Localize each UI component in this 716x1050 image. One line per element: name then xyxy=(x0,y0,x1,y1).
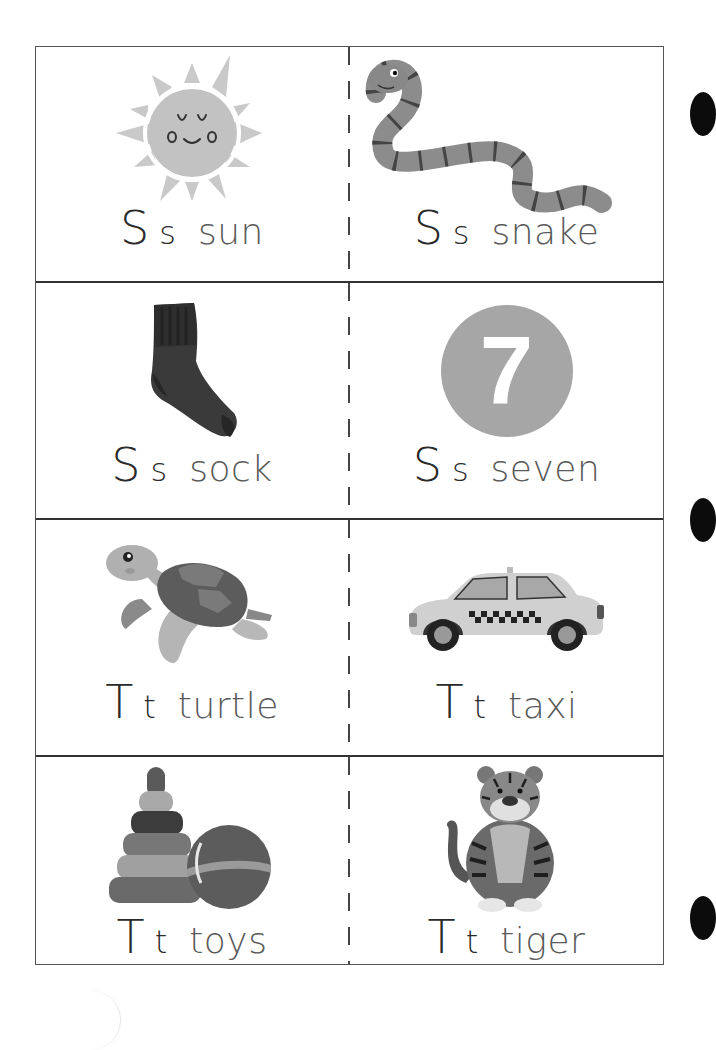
lowercase-letter: t xyxy=(143,691,156,723)
card-word: seven xyxy=(491,451,601,487)
card-sun: S s sun xyxy=(36,47,348,281)
sock-icon xyxy=(36,301,348,441)
card-label: S s sock xyxy=(36,442,348,488)
uppercase-letter: S xyxy=(414,205,443,251)
number-seven-icon: 7 xyxy=(350,303,663,439)
card-word: toys xyxy=(189,923,267,959)
lowercase-letter: s xyxy=(453,217,470,249)
card-label: S s snake xyxy=(350,205,663,251)
snake-icon xyxy=(350,53,663,223)
tiger-icon xyxy=(350,763,663,913)
card-snake: S s snake xyxy=(350,47,663,281)
card-toys: T t toys xyxy=(36,757,348,964)
uppercase-letter: S xyxy=(413,442,442,488)
card-word: taxi xyxy=(508,688,577,724)
card-taxi: T t taxi xyxy=(350,520,663,755)
card-label: T t taxi xyxy=(350,679,663,725)
page-curl-mark xyxy=(60,990,121,1050)
uppercase-letter: T xyxy=(428,914,456,960)
card-tiger: T t tiger xyxy=(350,757,663,964)
card-seven: 7 S s seven xyxy=(350,283,663,518)
uppercase-letter: T xyxy=(435,679,463,725)
lowercase-letter: s xyxy=(452,454,469,486)
uppercase-letter: T xyxy=(117,914,145,960)
uppercase-letter: T xyxy=(105,679,133,725)
card-row-1: S s sun S s snake xyxy=(36,47,663,283)
card-label: T t toys xyxy=(36,914,348,960)
card-label: S s seven xyxy=(350,442,663,488)
card-row-2: S s sock 7 S s seven xyxy=(36,283,663,520)
binder-hole-bottom xyxy=(690,896,716,940)
lowercase-letter: s xyxy=(159,217,176,249)
lowercase-letter: t xyxy=(474,691,487,723)
card-word: turtle xyxy=(178,688,279,724)
toys-icon xyxy=(36,765,348,915)
uppercase-letter: S xyxy=(120,205,149,251)
card-row-3: T t turtle xyxy=(36,520,663,757)
sun-icon xyxy=(36,55,348,205)
card-label: T t tiger xyxy=(350,914,663,960)
card-turtle: T t turtle xyxy=(36,520,348,755)
card-word: tiger xyxy=(500,923,585,959)
card-word: sock xyxy=(189,451,272,487)
card-label: T t turtle xyxy=(36,679,348,725)
card-sock: S s sock xyxy=(36,283,348,518)
flashcard-sheet: S s sun S s snake xyxy=(35,46,664,965)
card-row-4: T t toys xyxy=(36,757,663,964)
lowercase-letter: t xyxy=(466,926,479,958)
uppercase-letter: S xyxy=(111,442,140,488)
lowercase-letter: t xyxy=(155,926,168,958)
taxi-icon xyxy=(350,550,663,670)
card-word: snake xyxy=(492,214,600,250)
lowercase-letter: s xyxy=(151,454,168,486)
card-label: S s sun xyxy=(36,205,348,251)
binder-hole-top xyxy=(690,92,716,136)
seven-numeral: 7 xyxy=(480,323,533,419)
turtle-icon xyxy=(36,534,348,674)
card-word: sun xyxy=(198,214,264,250)
binder-hole-middle xyxy=(690,498,716,542)
